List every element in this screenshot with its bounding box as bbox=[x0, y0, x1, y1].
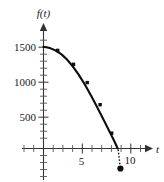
data-point bbox=[86, 81, 89, 84]
y-tick-label-500: 500 bbox=[20, 111, 37, 123]
root-end-dot bbox=[117, 165, 123, 171]
y-tick-labels: 1500 1000 500 bbox=[14, 41, 37, 123]
function-graph-figure: 1500 1000 500 5 10 f(t) t bbox=[0, 0, 164, 182]
chart-svg: 1500 1000 500 5 10 f(t) t bbox=[0, 0, 164, 182]
data-point bbox=[56, 49, 59, 52]
data-point bbox=[72, 63, 75, 66]
x-tick-label-5: 5 bbox=[79, 155, 85, 167]
y-tick-label-1500: 1500 bbox=[14, 41, 37, 53]
root-drop-line bbox=[118, 150, 120, 166]
data-point bbox=[110, 132, 113, 135]
x-axis-label: t bbox=[156, 143, 160, 155]
y-axis-arrowhead bbox=[40, 23, 47, 31]
x-axis-arrowhead bbox=[145, 145, 153, 152]
x-tick-labels: 5 10 bbox=[79, 154, 136, 167]
y-tick-label-1000: 1000 bbox=[14, 76, 37, 88]
y-axis-label: f(t) bbox=[37, 7, 51, 20]
root-annotation-group bbox=[117, 150, 123, 172]
function-curve-group bbox=[44, 47, 118, 149]
function-curve bbox=[44, 47, 118, 149]
data-point bbox=[98, 103, 101, 106]
x-tick-label-10: 10 bbox=[125, 154, 137, 166]
